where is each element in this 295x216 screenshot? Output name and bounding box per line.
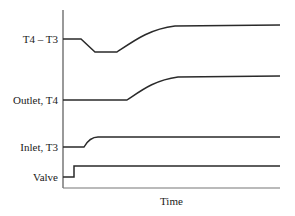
label-inlet-t3: Inlet, T3 xyxy=(20,141,58,153)
label-t4-minus-t3: T4 – T3 xyxy=(23,33,58,45)
step-response-diagram: T4 – T3 Outlet, T4 Inlet, T3 Valve Time xyxy=(0,0,295,216)
trace-outlet-t4 xyxy=(63,76,280,100)
trace-t4-minus-t3 xyxy=(63,25,280,52)
label-valve: Valve xyxy=(33,171,58,183)
label-outlet-t4: Outlet, T4 xyxy=(13,94,58,106)
trace-valve xyxy=(63,166,280,177)
x-axis-label: Time xyxy=(160,195,183,207)
trace-inlet-t3 xyxy=(63,137,280,147)
